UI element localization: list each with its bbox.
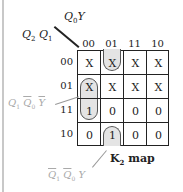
col-header: 11 [123,38,146,49]
map-cell: X [101,75,124,99]
group-term-annotation: Q1 Q0 Y [48,169,85,182]
row-header: 10 [55,128,73,139]
term-y-bar: Y [38,97,45,108]
term-q0-sub: 0 [31,103,35,110]
map-cell: X [78,51,101,75]
map-cell: 0 [101,99,124,123]
map-cell: 0 [147,99,170,123]
map-cell: 0 [147,123,170,147]
map-cell: X [78,75,101,99]
term-y: Y [78,169,85,180]
term-q0-sub: 0 [71,175,75,182]
col-header: 01 [100,38,123,49]
map-cell: X [124,51,147,75]
map-title: K2 map [110,152,155,167]
annotation-pointer [92,150,107,167]
map-cell: 0 [78,123,101,147]
row-header: 01 [55,80,73,91]
variable-divider-line [54,26,80,48]
col-header: 10 [146,38,169,49]
map-cell: X [147,51,170,75]
row-header: 00 [55,56,73,67]
map-cell: 0 [124,99,147,123]
map-title-k: K [110,152,120,165]
row-var-q2: Q [22,28,31,41]
map-cell: 0 [124,123,147,147]
map-cell: X [124,75,147,99]
col-var-y: Y [78,10,85,23]
row-var-q2-sub: 2 [31,35,35,43]
col-header: 00 [77,38,100,49]
row-var-q1-sub: 1 [48,35,52,43]
row-var-q1: Q [39,28,48,41]
term-q1-bar: Q [48,169,56,180]
group-term-annotation: Q1 Q0 Y [8,97,45,110]
column-variable-label: Q0Y [64,10,85,25]
term-q1-sub: 1 [16,103,20,110]
karnaugh-map-grid: X X X X X X X X 1 0 0 0 0 1 0 0 [77,50,169,146]
map-cell: X [101,51,124,75]
map-title-suffix: map [124,152,154,165]
col-var-q: Q [64,10,73,23]
row-header: 11 [55,104,73,115]
row-variable-label: Q2 Q1 [22,28,53,43]
term-q1: Q [8,97,16,108]
map-cell: 1 [101,123,124,147]
map-cell: X [147,75,170,99]
page-edge [2,0,4,192]
map-cell: 1 [78,99,101,123]
term-q1-sub: 1 [56,175,60,182]
